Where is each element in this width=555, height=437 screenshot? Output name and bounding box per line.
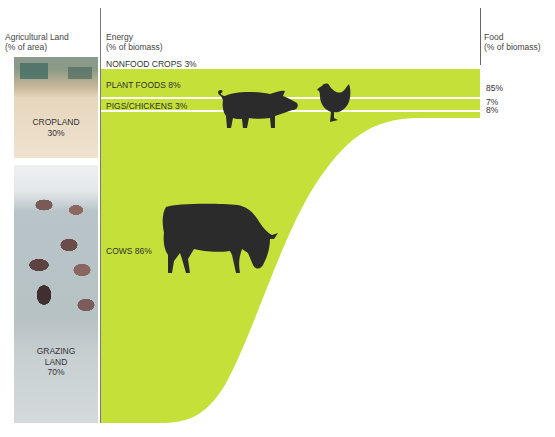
plant-foods-label: PLANT FOODS 8%	[106, 80, 180, 90]
nonfood-crops-label: NONFOOD CROPS 3%	[106, 59, 197, 69]
cows-label: COWS 86%	[106, 246, 152, 256]
food-plant-value: 85%	[486, 83, 503, 93]
cow-icon	[158, 203, 280, 275]
chicken-icon	[316, 82, 352, 124]
pig-icon	[215, 88, 300, 133]
food-cows-value: 8%	[486, 105, 498, 115]
pigs-chickens-label: PIGS/CHICKENS 3%	[106, 101, 187, 111]
